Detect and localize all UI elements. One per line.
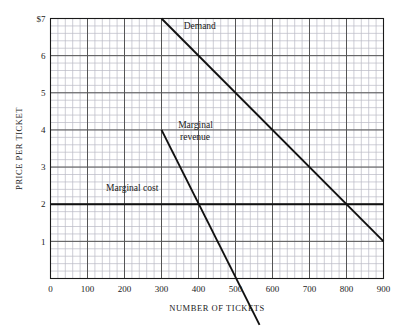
x-tick-label: 500 (229, 284, 243, 294)
x-axis-title: NUMBER OF TICKETS (169, 303, 265, 313)
x-tick-label: 400 (192, 284, 206, 294)
y-tick-label: 6 (41, 51, 46, 61)
annotation-label: Marginal (178, 120, 213, 130)
y-tick-label: 4 (41, 125, 46, 135)
x-tick-label: 600 (266, 284, 280, 294)
y-tick-label: $7 (37, 14, 47, 24)
price-quantity-chart: 0100200300400500600700800900 123456$7 De… (0, 0, 399, 336)
x-tick-label: 700 (303, 284, 317, 294)
y-tick-label: 1 (41, 237, 46, 247)
y-tick-label: 3 (41, 162, 46, 172)
x-tick-label: 200 (118, 284, 132, 294)
x-tick-label: 100 (81, 284, 95, 294)
annotation-label: Marginal cost (106, 183, 159, 193)
annotation-label: revenue (180, 132, 210, 142)
y-tick-label: 2 (41, 199, 46, 209)
x-tick-label: 300 (155, 284, 169, 294)
x-tick-label: 800 (340, 284, 354, 294)
x-tick-label: 900 (377, 284, 391, 294)
x-tick-label: 0 (48, 284, 53, 294)
annotation-label: Demand (184, 21, 216, 31)
y-axis-title: PRICE PER TICKET (14, 107, 24, 190)
y-tick-label: 5 (41, 88, 46, 98)
chart-page: 0100200300400500600700800900 123456$7 De… (0, 0, 399, 336)
